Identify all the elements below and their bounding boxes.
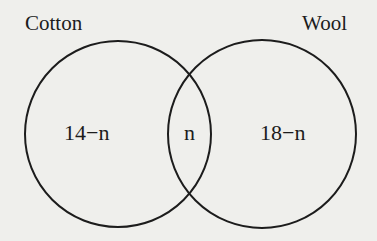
wool-label: Wool [302, 11, 347, 36]
intersection-region: n [184, 120, 195, 146]
cotton-only-region: 14−n [64, 120, 109, 146]
wool-only-region: 18−n [260, 120, 305, 146]
cotton-label: Cotton [25, 11, 82, 36]
